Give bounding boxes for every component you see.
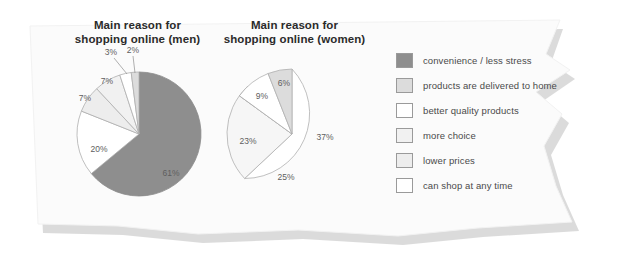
pie-women-wrap: 37% 25% 23% 9% 6% (212, 52, 402, 202)
charts-area: Main reason for shopping online (men) (0, 0, 400, 230)
pie-men-label-2: 2% (127, 45, 140, 55)
pie-women-label-25: 25% (277, 172, 294, 182)
pie-men-label-7-lower: 7% (79, 93, 92, 103)
chart-legend: convenience / less stress products are d… (396, 48, 596, 198)
pie-men-label-20: 20% (90, 144, 107, 154)
chart-title-men: Main reason for shopping online (men) (55, 18, 220, 46)
legend-swatch-lower-prices (396, 153, 413, 168)
legend-swatch-better-quality (396, 103, 413, 118)
legend-item-can-shop-any-time: can shop at any time (396, 173, 596, 198)
legend-item-lower-prices: lower prices (396, 148, 596, 173)
legend-swatch-can-shop-any-time (396, 178, 413, 193)
scanned-figure-canvas: Main reason for shopping online (men) (0, 0, 636, 258)
legend-label-more-choice: more choice (423, 130, 476, 141)
pie-chart-women: Main reason for shopping online (women) (212, 18, 402, 202)
chart-title-women: Main reason for shopping online (women) (212, 18, 377, 46)
pie-men-leader-3 (114, 58, 127, 74)
legend-label-better-quality: better quality products (423, 105, 519, 116)
chart-title-men-line1: Main reason for (94, 19, 181, 31)
pie-men-leader-2 (133, 56, 135, 73)
legend-item-better-quality: better quality products (396, 98, 596, 123)
legend-item-convenience: convenience / less stress (396, 48, 596, 73)
pie-women-label-23: 23% (239, 136, 256, 146)
legend-label-can-shop-any-time: can shop at any time (423, 180, 513, 191)
pie-women-label-6: 6% (278, 78, 291, 88)
legend-swatch-convenience (396, 53, 413, 68)
legend-label-convenience: convenience / less stress (423, 55, 532, 66)
pie-men-label-7-choice: 7% (101, 76, 114, 86)
pie-women-label-9: 9% (256, 91, 269, 101)
chart-title-women-line1: Main reason for (251, 19, 338, 31)
legend-label-lower-prices: lower prices (423, 155, 475, 166)
legend-item-more-choice: more choice (396, 123, 596, 148)
chart-title-women-line2: shopping online (women) (212, 32, 377, 46)
chart-title-men-line2: shopping online (men) (55, 32, 220, 46)
pie-women-label-37: 37% (316, 132, 333, 142)
legend-swatch-delivered-home (396, 78, 413, 93)
legend-swatch-more-choice (396, 128, 413, 143)
pie-men-label-61: 61% (162, 168, 179, 178)
legend-label-delivered-home: products are delivered to home (423, 80, 557, 91)
legend-item-delivered-home: products are delivered to home (396, 73, 596, 98)
pie-men-label-3: 3% (105, 47, 118, 57)
